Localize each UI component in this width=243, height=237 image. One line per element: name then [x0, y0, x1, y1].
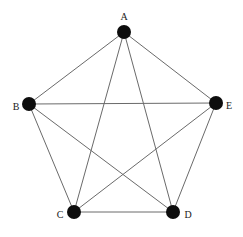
graph-edge-a-d	[124, 32, 173, 212]
graph-node-circle-b[interactable]	[22, 97, 36, 111]
graph-node-label-d: D	[184, 209, 191, 220]
graph-node-label-e: E	[226, 100, 232, 111]
graph-node-circle-d[interactable]	[166, 205, 180, 219]
graph-edge-b-c	[29, 104, 74, 212]
graph-node-circle-c[interactable]	[67, 205, 81, 219]
graph-node-c[interactable]: C	[57, 205, 81, 220]
graph-node-d[interactable]: D	[166, 205, 192, 220]
graph-edge-a-c	[74, 32, 124, 212]
graph-node-a[interactable]: A	[117, 11, 131, 39]
graph-node-circle-a[interactable]	[117, 25, 131, 39]
graph-canvas: ABCDE	[0, 0, 243, 237]
graph-edge-b-e	[29, 103, 216, 104]
graph-node-b[interactable]: B	[13, 97, 36, 112]
graph-edge-a-e	[124, 32, 216, 103]
graph-node-circle-e[interactable]	[209, 96, 223, 110]
graph-node-label-a: A	[120, 11, 128, 22]
graph-node-label-b: B	[13, 101, 20, 112]
graph-node-label-c: C	[57, 209, 64, 220]
graph-edge-a-b	[29, 32, 124, 104]
graph-edge-b-d	[29, 104, 173, 212]
edge-layer	[29, 32, 216, 212]
graph-node-e[interactable]: E	[209, 96, 232, 111]
graph-diagram: ABCDE	[0, 0, 243, 237]
